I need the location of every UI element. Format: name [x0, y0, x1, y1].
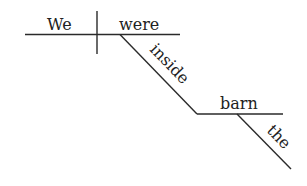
verb-word: were — [119, 15, 159, 34]
object-word: barn — [220, 94, 258, 113]
sentence-diagram: We were inside barn the — [0, 0, 307, 186]
preposition-word: inside — [146, 40, 193, 88]
article-word: the — [263, 121, 295, 153]
subject-word: We — [47, 15, 72, 34]
